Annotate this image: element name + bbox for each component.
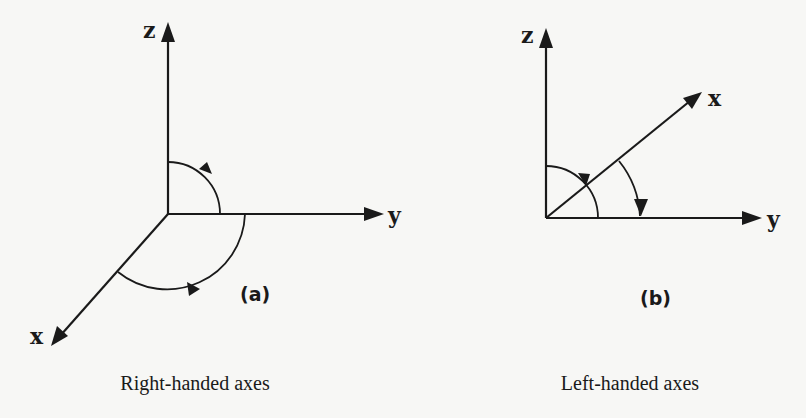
x-arrowhead-icon	[683, 92, 702, 109]
x-axis-label: x	[708, 85, 722, 111]
y-axis-label: y	[387, 202, 402, 228]
z-arrowhead-icon	[161, 22, 175, 42]
x-axis-label: x	[30, 323, 44, 349]
panel-a-caption: Right-handed axes	[120, 372, 270, 395]
z-arrowhead-icon	[539, 28, 553, 48]
panel-b-left-handed: z y x (b) Left-handed axes	[521, 22, 781, 394]
panel-a-tag: (a)	[240, 283, 270, 305]
x-axis	[60, 214, 168, 336]
y-arrowhead-icon	[364, 207, 384, 221]
rotation-arrowhead-icon	[199, 162, 212, 174]
y-axis-label: y	[766, 206, 781, 232]
panel-a-right-handed: z y x (a) Right-handed axes	[30, 17, 402, 395]
x-to-y-rotation-arc	[619, 161, 640, 216]
y-to-x-rotation-arc	[118, 214, 245, 289]
z-to-y-rotation-arc	[168, 162, 220, 214]
coordinate-axes-figure: z y x (a) Right-handed axes z y x (b) Le…	[0, 0, 806, 418]
rotation-arrowhead-icon	[634, 199, 648, 216]
z-axis-label: z	[521, 22, 534, 48]
y-arrowhead-icon	[742, 211, 762, 225]
panel-b-caption: Left-handed axes	[561, 372, 699, 394]
x-axis	[546, 101, 690, 218]
z-axis-label: z	[143, 17, 156, 43]
panel-b-tag: (b)	[640, 287, 671, 309]
z-to-y-rotation-arc	[546, 166, 598, 218]
